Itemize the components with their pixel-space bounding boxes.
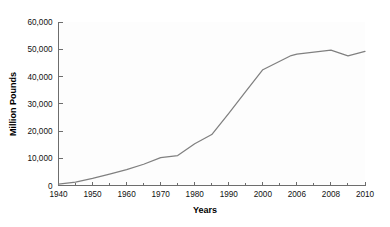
- x-tick-label: 1980: [186, 190, 205, 199]
- x-tick-label: 2010: [356, 190, 375, 199]
- x-axis-title: Years: [193, 205, 217, 215]
- y-tick-label: 10,000: [27, 154, 52, 163]
- x-tick-label: 2008: [322, 190, 341, 199]
- y-tick-label: 20,000: [27, 127, 52, 136]
- chart-figure: 010,00020,00030,00040,00050,00060,000 19…: [0, 0, 390, 227]
- x-tick-label: 1950: [83, 190, 102, 199]
- y-axis-title: Million Pounds: [8, 72, 18, 136]
- x-tick-label: 1940: [49, 190, 68, 199]
- y-tick-label: 40,000: [27, 73, 52, 82]
- x-tick-label: 1990: [220, 190, 239, 199]
- y-tick-label: 50,000: [27, 45, 52, 54]
- y-axis-tick-labels: 010,00020,00030,00040,00050,00060,000: [27, 18, 52, 191]
- x-tick-label: 1970: [152, 190, 171, 199]
- y-tick-label: 60,000: [27, 18, 52, 27]
- plot-area-background: [58, 22, 365, 185]
- y-tick-label: 30,000: [27, 100, 52, 109]
- x-axis-tick-labels: 1940195019601970198019902000200620082010: [49, 190, 374, 199]
- x-tick-label: 1960: [118, 190, 137, 199]
- x-tick-label: 2000: [254, 190, 273, 199]
- x-tick-label: 2006: [288, 190, 307, 199]
- line-chart: 010,00020,00030,00040,00050,00060,000 19…: [0, 0, 390, 227]
